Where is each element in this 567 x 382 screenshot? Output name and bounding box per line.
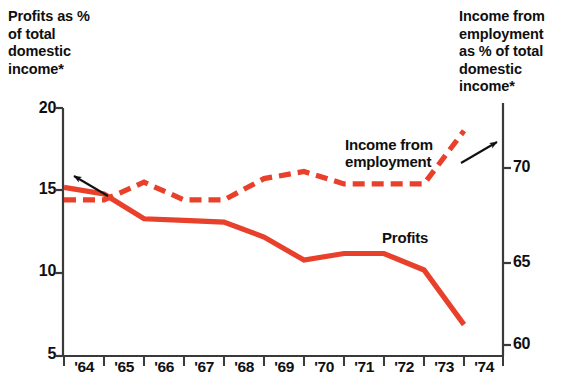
- right-axis-spine: [503, 103, 511, 356]
- chart-root: Profits as % of total domestic income* I…: [0, 0, 567, 382]
- x-axis-spine: [63, 356, 503, 366]
- series-line-profits: [64, 187, 464, 324]
- series-line-income-from-employment: [64, 131, 464, 200]
- chart-canvas: [0, 0, 567, 382]
- right-axis-arrow-icon: [461, 142, 497, 163]
- left-axis-spine: [55, 108, 63, 356]
